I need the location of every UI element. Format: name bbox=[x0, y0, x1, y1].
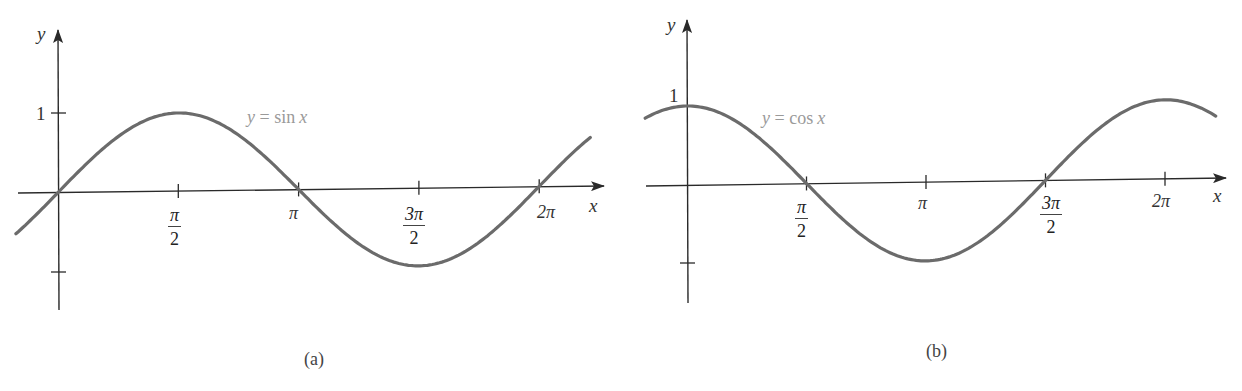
fraction-denominator: 2 bbox=[410, 226, 419, 247]
curve-label-fn: sin bbox=[274, 107, 295, 127]
curve-label-fn: cos bbox=[789, 108, 813, 128]
cos-curve bbox=[645, 100, 1215, 261]
fraction-numerator: 3π bbox=[1040, 194, 1062, 215]
panel-a-y-axis-label: y bbox=[37, 24, 45, 43]
curve-label-eq: = bbox=[260, 107, 270, 127]
curve-label-var: x bbox=[299, 107, 307, 127]
panel-b-y-axis-label: y bbox=[667, 15, 675, 34]
panel-a-xtick-label-2pi: 2π bbox=[537, 203, 555, 221]
panel-b-xtick-label-pi-over-2: π 2 bbox=[795, 198, 808, 240]
panel-a-xtick-label-pi-over-2: π 2 bbox=[168, 206, 181, 248]
fraction-denominator: 2 bbox=[170, 227, 179, 248]
panel-b-xtick-label-pi: π bbox=[918, 194, 927, 212]
panel-a-curve-label: y = sinx bbox=[247, 108, 307, 126]
panel-b-ytick-label: 1 bbox=[669, 86, 679, 105]
panel-a-y-axis bbox=[58, 30, 59, 310]
panel-a-x-axis-label: x bbox=[589, 196, 597, 215]
curve-label-var: x bbox=[817, 108, 825, 128]
curve-label-eq: = bbox=[775, 108, 785, 128]
panel-a-plot bbox=[16, 30, 604, 310]
panel-a-xtick-label-3pi-over-2: 3π 2 bbox=[403, 205, 425, 247]
fraction-denominator: 2 bbox=[1047, 215, 1056, 236]
curve-label-lhs: y bbox=[762, 108, 770, 128]
fraction-numerator: 3π bbox=[403, 205, 425, 226]
panel-a-x-axis bbox=[18, 186, 604, 193]
fraction-numerator: π bbox=[795, 198, 808, 219]
figure: y 1 x y = sinx π 2 π 3π 2 2π (a) y 1 x y… bbox=[0, 0, 1242, 391]
panel-b-xtick-label-3pi-over-2: 3π 2 bbox=[1040, 194, 1062, 236]
panel-a-xtick-label-pi: π bbox=[289, 204, 298, 222]
panel-a-caption: (a) bbox=[304, 350, 324, 368]
panel-b-plot bbox=[645, 20, 1226, 303]
fraction-denominator: 2 bbox=[797, 219, 806, 240]
panel-b-curve-label: y = cosx bbox=[762, 109, 825, 127]
panel-b-caption: (b) bbox=[926, 342, 947, 360]
panel-a-ytick-label: 1 bbox=[36, 104, 46, 123]
curve-label-lhs: y bbox=[247, 107, 255, 127]
panel-b-x-axis bbox=[646, 178, 1226, 186]
fraction-numerator: π bbox=[168, 206, 181, 227]
panel-b-xtick-label-2pi: 2π bbox=[1152, 192, 1170, 210]
panel-b-y-axis bbox=[687, 20, 688, 303]
panel-b-x-axis-label: x bbox=[1213, 186, 1221, 205]
